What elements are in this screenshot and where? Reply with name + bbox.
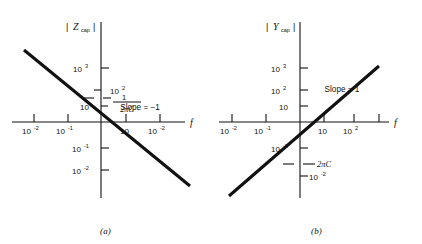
svg-text:3: 3 (283, 63, 286, 69)
svg-text:-2: -2 (321, 171, 326, 177)
x-tick-label-b-100: 10 2 (343, 125, 358, 136)
y-tick-label-a-0p01: 10 -2 (72, 165, 89, 176)
slope-label-a: Slope = −1 (120, 103, 160, 112)
panel-caption-b: (b) (211, 226, 422, 236)
annotation-2piC: 2πC (317, 160, 331, 169)
svg-text:3: 3 (85, 63, 88, 69)
svg-text:2: 2 (122, 85, 125, 91)
y-axis-title-symbol: Z (73, 21, 79, 32)
y-axis-title-b: | Y cap | (266, 21, 295, 33)
x-tick-label-a-100: 10 -2 (148, 125, 165, 136)
x-tick-label-b-0p1: 10 -1 (254, 125, 271, 136)
slope-label-b: Slope = 1 (325, 85, 360, 94)
svg-text:10: 10 (254, 127, 263, 136)
y-tick-label-a-1000: 10 3 (73, 63, 88, 74)
svg-text:-1: -1 (84, 143, 89, 149)
chart-panel-b: | Y cap | f 10 3 10 2 10 10 -1 (211, 0, 422, 244)
svg-text:-2: -2 (34, 125, 39, 131)
y-axis-title-subscript: cap (81, 27, 90, 33)
x-tick-label-a-10: 10 (120, 127, 129, 136)
data-line-slope-minus-1 (24, 50, 190, 186)
y-axis-title-a: | Z cap | (66, 21, 95, 33)
svg-text:10: 10 (72, 167, 81, 176)
svg-text:2: 2 (355, 125, 358, 131)
y-tick-label-a-0p1: 10 -1 (72, 143, 89, 154)
y-axis-title-subscript-b: cap (281, 27, 290, 33)
chart-panel-a: | Z cap | f 10 3 10 2 10 10 -1 (0, 0, 211, 244)
y-axis-title-bar-left-b: | (266, 22, 268, 32)
x-tick-label-b-10: 10 (318, 127, 327, 136)
svg-text:10: 10 (279, 103, 288, 112)
y-axis-title-bar-left: | (66, 22, 68, 32)
svg-text:-2: -2 (84, 165, 89, 171)
y-axis-title-bar-right-b: | (293, 22, 295, 32)
svg-text:10: 10 (343, 127, 352, 136)
y-tick-label-b-0p01: 10 -2 (309, 171, 326, 182)
svg-text:2: 2 (283, 85, 286, 91)
svg-text:10: 10 (271, 65, 280, 74)
x-tick-label-a-0p01: 10 -2 (22, 125, 39, 136)
svg-text:10: 10 (72, 145, 81, 154)
svg-text:10: 10 (309, 173, 318, 182)
x-axis-title-a: f (190, 117, 194, 128)
svg-text:10: 10 (271, 145, 280, 154)
svg-text:10: 10 (22, 127, 31, 136)
svg-text:-2: -2 (160, 125, 165, 131)
svg-text:10: 10 (120, 127, 129, 136)
svg-text:-2: -2 (232, 125, 237, 131)
figure-container: | Z cap | f 10 3 10 2 10 10 -1 (0, 0, 422, 244)
y-axis-title-bar-right: | (93, 22, 95, 32)
chart-a-svg: | Z cap | f 10 3 10 2 10 10 -1 (0, 0, 211, 244)
y-axis-title-symbol-b: Y (273, 21, 280, 32)
svg-text:10: 10 (148, 127, 157, 136)
y-tick-label-b-1000: 10 3 (271, 63, 286, 74)
svg-text:10: 10 (318, 127, 327, 136)
x-axis-title-b: f (394, 117, 398, 128)
y-tick-label-b-10: 10 (279, 103, 288, 112)
svg-text:10: 10 (73, 65, 82, 74)
svg-text:1: 1 (122, 93, 126, 102)
chart-b-svg: | Y cap | f 10 3 10 2 10 10 -1 (211, 0, 422, 244)
svg-text:10: 10 (220, 127, 229, 136)
y-tick-label-b-100: 10 2 (271, 85, 286, 96)
svg-text:10: 10 (56, 127, 65, 136)
panel-caption-a: (a) (0, 226, 211, 236)
y-tick-label-a-10: 10 (80, 103, 89, 112)
svg-text:10: 10 (110, 87, 119, 96)
svg-text:10: 10 (271, 87, 280, 96)
svg-text:-1: -1 (266, 125, 271, 131)
y-tick-label-b-0p1: 10 -1 (271, 143, 288, 154)
svg-text:-1: -1 (68, 125, 73, 131)
x-tick-label-b-0p01: 10 -2 (220, 125, 237, 136)
svg-text:10: 10 (80, 103, 89, 112)
x-tick-label-a-0p1: 10 -1 (56, 125, 73, 136)
svg-text:-1: -1 (283, 143, 288, 149)
